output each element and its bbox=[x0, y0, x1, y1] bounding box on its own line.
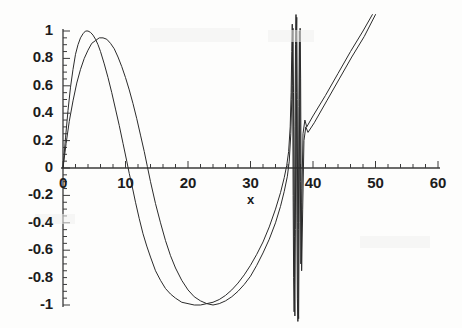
y-tick-label: -0.4 bbox=[0, 213, 53, 230]
y-tick-label: 0.8 bbox=[0, 48, 53, 65]
y-tick-label: 0 bbox=[0, 158, 53, 175]
y-tick-label: -0.8 bbox=[0, 268, 53, 285]
y-tick-label: 1 bbox=[0, 21, 53, 38]
y-tick-label: -0.2 bbox=[0, 185, 53, 202]
x-tick-label: 20 bbox=[168, 174, 208, 191]
x-tick-label: 40 bbox=[293, 174, 333, 191]
plot-canvas bbox=[0, 0, 462, 328]
x-tick-label: 60 bbox=[418, 174, 458, 191]
data-series-curve-2 bbox=[63, 15, 376, 319]
x-tick-label: 10 bbox=[106, 174, 146, 191]
y-tick-label: 0.4 bbox=[0, 103, 53, 120]
chart-figure: 010203040506010.80.60.40.20-0.2-0.4-0.6-… bbox=[0, 0, 462, 328]
x-axis-title: x bbox=[231, 192, 271, 207]
x-tick-label: 50 bbox=[356, 174, 396, 191]
y-tick-label: 0.2 bbox=[0, 131, 53, 148]
y-tick-label: 0.6 bbox=[0, 76, 53, 93]
y-tick-label: -0.6 bbox=[0, 240, 53, 257]
x-tick-label: 30 bbox=[231, 174, 271, 191]
y-tick-label: -1 bbox=[0, 295, 53, 312]
